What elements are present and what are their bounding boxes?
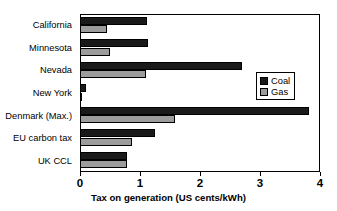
category-label: Minnesota [0,43,72,53]
x-tick-mark [320,172,321,176]
x-tick-mark [260,172,261,176]
x-tick-mark [140,172,141,176]
legend-swatch-coal-icon [260,77,268,85]
x-tick-label: 2 [188,177,212,189]
bar-coal [80,152,127,160]
bar-coal [80,39,148,47]
bar-chart: CaliforniaMinnesotaNevadaNew YorkDenmark… [0,0,337,211]
legend-swatch-gas-icon [260,88,268,96]
chart-legend: CoalGas [256,72,295,100]
x-axis-title: Tax on generation (US cents/kWh) [0,192,337,203]
category-label: New York [0,88,72,98]
bar-coal [80,84,86,92]
category-label: Denmark (Max.) [0,111,72,121]
x-tick-mark [200,172,201,176]
bar-group [80,149,320,172]
category-label: California [0,20,72,30]
legend-item: Gas [260,86,290,97]
category-label: Nevada [0,65,72,75]
bar-group [80,37,320,60]
bar-coal [80,107,309,115]
category-label: UK CCL [0,156,72,166]
x-tick-label: 0 [68,177,92,189]
bar-group [80,14,320,37]
bar-gas [80,25,107,33]
bar-gas [80,138,132,146]
x-axis-ticks: 01234 [80,172,320,194]
bar-gas [80,115,175,123]
legend-label: Coal [271,76,290,86]
bar-group [80,127,320,150]
bar-gas [80,70,146,78]
category-axis-labels: CaliforniaMinnesotaNevadaNew YorkDenmark… [0,14,76,172]
bar-coal [80,62,242,70]
x-tick-label: 4 [308,177,332,189]
legend-item: Coal [260,75,290,86]
bar-gas [80,48,110,56]
bar-group [80,104,320,127]
bar-gas [80,160,127,168]
legend-label: Gas [271,87,288,97]
x-tick-mark [80,172,81,176]
x-tick-label: 1 [128,177,152,189]
bar-coal [80,129,155,137]
x-tick-label: 3 [248,177,272,189]
bar-coal [80,17,147,25]
category-label: EU carbon tax [0,133,72,143]
bar-gas [80,93,82,101]
